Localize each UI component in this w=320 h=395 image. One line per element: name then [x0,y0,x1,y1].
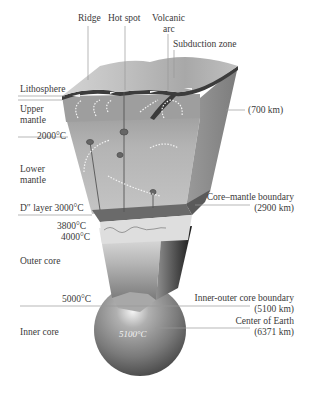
label-upper-mantle-2: mantle [20,115,46,126]
label-inner-core: Inner core [20,327,59,338]
upper-mantle-front [62,94,200,122]
lower-mantle-front [66,118,200,214]
label-lower-mantle-1: Lower [20,164,45,175]
label-center-of-earth: Center of Earth [235,316,294,327]
label-lower-mantle-2: mantle [20,175,46,186]
label-d-layer: D″ layer 3000°C [20,203,84,214]
label-depth-2900: (2900 km) [254,203,294,214]
label-center-temp: 5100°C [119,329,147,340]
label-upper-mantle-1: Upper [20,104,44,115]
label-hot-spot: Hot spot [108,13,140,24]
label-depth-6371: (6371 km) [254,327,294,338]
label-core-mantle-boundary: Core–mantle boundary [207,192,294,203]
label-volcanic-arc-2: arc [163,24,175,35]
label-inner-outer-boundary: Inner-outer core boundary [194,293,294,304]
label-ridge: Ridge [78,13,101,24]
label-temp-3800: 3800°C [57,221,86,232]
label-temp-4000: 4000°C [61,232,90,243]
label-temp-5000: 5000°C [62,294,91,305]
label-outer-core: Outer core [20,256,60,267]
label-temp-2000: 2000°C [37,131,66,142]
label-subduction-zone: Subduction zone [173,39,237,50]
label-volcanic-arc-1: Volcanic [152,13,185,24]
label-depth-700: (700 km) [248,105,283,116]
label-depth-5100: (5100 km) [254,304,294,315]
label-lithosphere: Lithosphere [20,84,65,95]
